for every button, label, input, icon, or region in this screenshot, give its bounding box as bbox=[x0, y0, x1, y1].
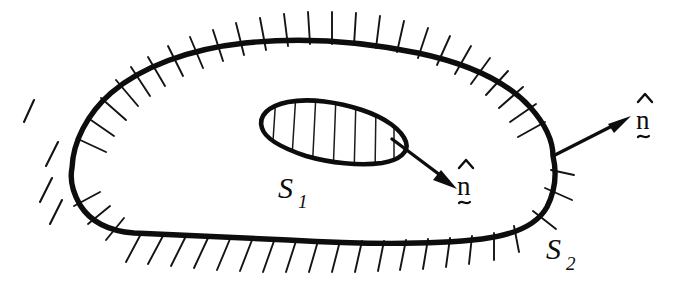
hatch-mark bbox=[148, 234, 164, 264]
surface-diagram-svg: S 1 S 2 n n bbox=[0, 0, 699, 290]
label-n-hat-inner: n bbox=[457, 160, 473, 203]
tilde-under-accent-icon bbox=[459, 202, 470, 204]
outer-normal-arrow-shaft bbox=[553, 122, 620, 156]
label-n-hat-outer-base: n bbox=[636, 105, 650, 135]
hatch-mark bbox=[309, 241, 318, 272]
hatch-mark bbox=[332, 241, 340, 272]
hatch-mark bbox=[354, 13, 356, 45]
hatch-mark bbox=[88, 118, 114, 136]
hatch-mark bbox=[171, 236, 186, 266]
inner-normal-arrow bbox=[392, 139, 457, 189]
hatch-mark bbox=[260, 18, 266, 50]
hatch-mark bbox=[78, 139, 106, 152]
hatch-mark bbox=[126, 232, 142, 262]
hatch-mark-detached bbox=[46, 142, 58, 166]
label-n-hat-outer: n bbox=[636, 94, 652, 137]
label-s1-base: S bbox=[278, 171, 293, 204]
circumflex-accent-icon bbox=[459, 160, 473, 168]
hatch-mark-detached bbox=[40, 178, 52, 202]
hatch-mark bbox=[217, 239, 230, 270]
label-s2: S 2 bbox=[546, 232, 576, 274]
inner-hatch-line bbox=[312, 93, 316, 174]
label-s1-subscript: 1 bbox=[298, 191, 308, 212]
outer-normal-arrow bbox=[553, 116, 631, 156]
label-n-hat-inner-base: n bbox=[457, 171, 471, 201]
label-s2-subscript: 2 bbox=[566, 253, 576, 274]
hatch-mark bbox=[286, 241, 296, 272]
hatch-mark bbox=[263, 241, 274, 272]
inner-hatch-line bbox=[291, 93, 296, 173]
tilde-under-accent-icon bbox=[638, 136, 649, 138]
label-s1: S 1 bbox=[278, 171, 308, 212]
hatch-mark-detached bbox=[50, 200, 62, 224]
figure-root: S 1 S 2 n n bbox=[0, 0, 699, 290]
hatch-mark-detached bbox=[24, 100, 34, 122]
label-s2-base: S bbox=[546, 232, 561, 265]
outer-normal-arrow-head bbox=[608, 116, 631, 133]
detached-hatch-group bbox=[24, 100, 62, 224]
hatch-mark bbox=[194, 238, 208, 268]
circumflex-accent-icon bbox=[638, 94, 652, 102]
hatch-mark bbox=[236, 23, 244, 55]
hatch-mark bbox=[240, 240, 252, 271]
